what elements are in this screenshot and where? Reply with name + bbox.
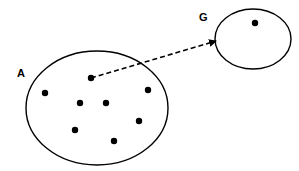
diagram-canvas: AG [0,0,299,171]
set-point [145,87,151,93]
set-ellipse [26,51,168,165]
set-point [136,118,142,124]
set-a: A [17,51,168,165]
set-point [252,20,258,26]
set-point [42,90,48,96]
set-point [72,127,78,133]
set-label: A [17,67,25,79]
set-label: G [199,11,208,23]
set-g: G [199,9,291,69]
set-point [103,100,109,106]
set-ellipse [215,9,291,69]
set-point [77,100,83,106]
set-point [111,138,117,144]
